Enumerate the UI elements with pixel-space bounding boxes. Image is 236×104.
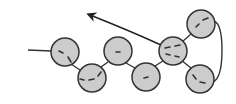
nodes <box>51 10 215 93</box>
sphere-node-7 <box>186 65 214 93</box>
sphere-chain-diagram <box>0 0 236 104</box>
sphere-node-3 <box>104 37 132 65</box>
sphere-node-1 <box>51 38 79 66</box>
sphere-node-5 <box>159 37 187 65</box>
sphere-node-6 <box>187 10 215 38</box>
sphere-node-2 <box>78 64 106 92</box>
lead-line <box>28 50 51 51</box>
